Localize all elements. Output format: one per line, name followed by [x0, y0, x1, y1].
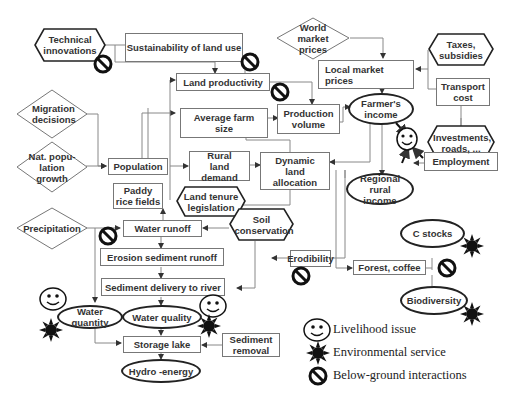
legend-below-ground-label: Below-ground interactions [333, 368, 467, 383]
node-dynamic-land-allocation: Dynamic land allocation [260, 152, 330, 190]
node-transport-cost: Transport cost [436, 78, 490, 106]
no-sign-icon [242, 54, 258, 70]
sun-icon [460, 302, 484, 326]
no-sign-icon [272, 84, 288, 100]
node-forest-coffee: Forest, coffee [353, 260, 426, 275]
no-sign-icon [95, 56, 111, 72]
no-sign-icon [439, 260, 455, 276]
node-regional-rural-income: Regional rural income [346, 173, 414, 205]
smiley-icon [200, 295, 226, 317]
node-land-tenure-legislation: Land tenure legislation [176, 186, 246, 217]
node-water-quantity: Water quantity [57, 305, 123, 329]
smiley-icon [397, 128, 417, 150]
node-rural-land-demand: Rural land demand [189, 151, 250, 181]
no-sign-icon [100, 228, 116, 244]
node-sediment-removal: Sediment removal [222, 333, 280, 357]
node-paddy-rice-fields: Paddy rice fields [113, 183, 163, 209]
legend-no-sign-icon [310, 368, 326, 384]
legend-environmental-label: Environmental service [333, 345, 446, 360]
no-sign-icon [293, 268, 309, 284]
legend-smiley-icon [304, 319, 330, 341]
diagram-canvas: Technical innovations Sustainability of … [0, 0, 512, 396]
node-production-volume: Production volume [277, 104, 340, 134]
legend-livelihood-label: Livelihood issue [333, 322, 416, 337]
sun-icon [197, 314, 221, 338]
sun-icon [460, 234, 484, 258]
node-average-farm-size: Average farm size [180, 108, 268, 138]
legend-sun-icon [306, 341, 330, 365]
